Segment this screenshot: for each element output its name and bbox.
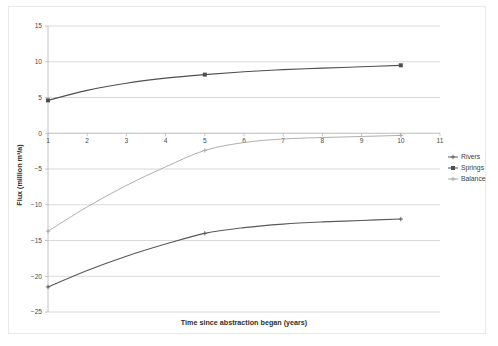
chart-legend: RiversSpringsBalance <box>448 153 486 182</box>
x-axis-tick-labels: 1234567891011 <box>46 137 444 144</box>
data-point-springs <box>399 63 403 67</box>
y-tick-label: −10 <box>31 201 43 208</box>
data-point-rivers <box>399 217 403 221</box>
y-axis-title: Flux (million m³/a) <box>15 144 24 206</box>
legend-label-springs: Springs <box>461 164 485 172</box>
data-point-balance <box>46 229 50 233</box>
legend-marker-balance <box>451 177 455 181</box>
x-tick-label: 10 <box>397 137 405 144</box>
y-axis-tick-labels: 151050−5−10−15−20−25 <box>31 22 43 315</box>
series-line-springs <box>48 65 401 100</box>
y-tick-label: −15 <box>31 237 43 244</box>
data-point-rivers <box>203 231 207 235</box>
legend-label-balance: Balance <box>461 175 486 182</box>
y-tick-label: −25 <box>31 308 43 315</box>
x-tick-label: 11 <box>437 137 444 144</box>
x-tick-label: 7 <box>281 137 285 144</box>
y-tick-label: −20 <box>31 273 43 280</box>
y-tick-label: 5 <box>38 94 42 101</box>
x-tick-label: 2 <box>85 137 89 144</box>
data-point-balance <box>203 148 207 152</box>
data-series-group <box>48 65 401 287</box>
x-tick-label: 4 <box>164 137 168 144</box>
x-tick-label: 5 <box>203 137 207 144</box>
legend-marker-springs <box>451 166 455 170</box>
y-tick-label: 0 <box>38 130 42 137</box>
flux-vs-time-line-chart: 151050−5−10−15−20−25 1234567891011 Time … <box>0 0 498 346</box>
x-tick-label: 6 <box>242 137 246 144</box>
y-tick-label: 15 <box>35 22 43 29</box>
data-point-springs <box>46 98 50 102</box>
x-tick-label: 8 <box>321 137 325 144</box>
data-point-springs <box>203 73 207 77</box>
y-tick-label: 10 <box>35 58 43 65</box>
series-line-balance <box>48 135 401 231</box>
y-tick-label: −5 <box>34 165 42 172</box>
legend-label-rivers: Rivers <box>461 153 481 160</box>
gridlines-group <box>48 26 440 312</box>
chart-figure: 151050−5−10−15−20−25 1234567891011 Time … <box>0 0 498 346</box>
series-line-rivers <box>48 219 401 287</box>
x-tick-label: 3 <box>125 137 129 144</box>
x-tick-label: 1 <box>46 137 50 144</box>
legend-marker-rivers <box>451 155 455 159</box>
data-point-rivers <box>46 285 50 289</box>
x-axis-title: Time since abstraction began (years) <box>181 318 308 327</box>
x-tick-label: 9 <box>360 137 364 144</box>
